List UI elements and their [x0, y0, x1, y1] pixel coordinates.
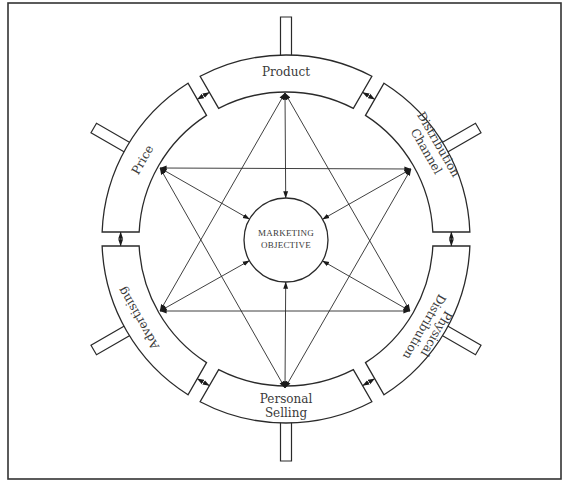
spoke-top — [285, 93, 286, 198]
marketing-objective-circle[interactable] — [244, 198, 328, 282]
stub-product — [281, 17, 292, 57]
stub-price — [91, 123, 131, 153]
marketing-mix-diagram: MARKETING OBJECTIVE ProductDistributionC… — [0, 0, 567, 483]
segment-advertising[interactable] — [102, 246, 206, 395]
gap-link-arrow — [363, 92, 375, 99]
stub-physical-distribution — [441, 325, 481, 355]
gap-link-arrow — [363, 379, 375, 386]
segment-personal-selling[interactable] — [200, 370, 372, 423]
stub-personal-selling — [281, 421, 292, 461]
segment-price[interactable] — [102, 83, 206, 232]
segment-product[interactable] — [200, 55, 372, 108]
spoke-lower_left — [160, 261, 249, 311]
marketing-objective-node[interactable]: MARKETING OBJECTIVE — [244, 198, 328, 282]
spoke-upper_left — [160, 168, 250, 219]
spoke-upper_right — [323, 169, 411, 219]
segment-distribution-channel[interactable] — [365, 83, 469, 232]
segment-physical-distribution[interactable] — [365, 246, 469, 395]
stub-advertising — [91, 325, 131, 355]
spoke-lower_right — [322, 261, 410, 311]
stub-distribution-channel — [441, 123, 481, 153]
gap-link-arrow — [197, 92, 209, 99]
spoke-bottom — [285, 282, 286, 388]
gap-link-arrow — [197, 379, 209, 386]
